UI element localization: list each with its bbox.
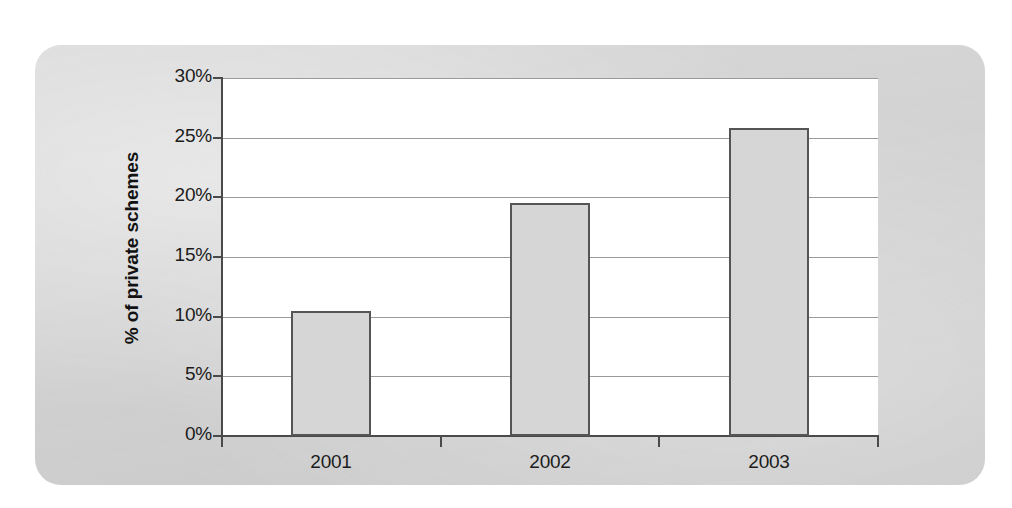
x-axis-tick	[877, 437, 879, 447]
x-axis-tick	[658, 437, 660, 447]
y-axis-tick-label: 30%	[144, 65, 212, 87]
y-axis-tick-label: 25%	[144, 125, 212, 147]
x-axis-tick-label: 2003	[689, 451, 849, 473]
gridline	[222, 78, 878, 79]
x-axis-tick-label: 2001	[251, 451, 411, 473]
y-axis-tick	[213, 137, 222, 139]
bar	[729, 128, 809, 436]
x-axis-tick	[221, 437, 223, 447]
y-axis-tick-label: 10%	[144, 304, 212, 326]
bar	[510, 203, 590, 436]
y-axis-tick	[213, 316, 222, 318]
y-axis-tick	[213, 256, 222, 258]
bar-chart: 0%5%10%15%20%25%30% 200120022003 % of pr…	[0, 0, 1012, 508]
y-axis-tick-label: 15%	[144, 244, 212, 266]
y-axis-tick-label: 20%	[144, 184, 212, 206]
y-axis-tick	[213, 375, 222, 377]
y-axis-tick	[213, 77, 222, 79]
bar	[291, 311, 371, 436]
y-axis-tick-label: 5%	[144, 363, 212, 385]
y-axis-title: % of private schemes	[121, 152, 143, 344]
x-axis-tick-label: 2002	[470, 451, 630, 473]
y-axis-tick	[213, 196, 222, 198]
x-axis-tick	[440, 437, 442, 447]
y-axis-tick-label: 0%	[144, 423, 212, 445]
